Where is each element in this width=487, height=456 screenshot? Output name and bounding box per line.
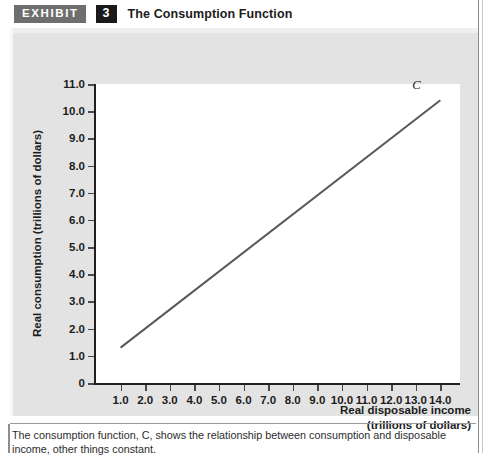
y-tick-mark — [88, 84, 94, 86]
exhibit-badge: EXHIBIT — [14, 5, 86, 23]
x-tick-mark — [416, 385, 418, 391]
y-axis-title: Real consumption (trillions of dollars) — [31, 84, 47, 383]
x-tick-mark — [170, 385, 172, 391]
y-tick-label: 3.0 — [69, 295, 85, 307]
y-tick-mark — [88, 193, 94, 195]
y-tick-mark — [88, 138, 94, 140]
figure-caption: The consumption function, C, shows the r… — [12, 428, 472, 456]
y-tick-label: 1.0 — [69, 350, 85, 362]
y-tick-label: 2.0 — [69, 323, 85, 335]
x-tick-mark — [268, 385, 270, 391]
y-tick-label: 0 — [79, 377, 85, 389]
caption-divider — [10, 423, 476, 424]
x-tick-mark — [145, 385, 147, 391]
x-tick-mark — [342, 385, 344, 391]
x-tick-mark — [219, 385, 221, 391]
caption-line-2: things constant. — [80, 443, 156, 455]
y-tick-label: 9.0 — [69, 132, 85, 144]
plot-area-wrapper: 01.02.03.04.05.06.07.08.09.010.011.0 1.0… — [96, 84, 460, 383]
exhibit-header: EXHIBIT 3 The Consumption Function — [14, 5, 292, 23]
y-tick-label: 11.0 — [63, 78, 85, 90]
page-edge-rule-secondary — [482, 0, 483, 453]
y-tick-label: 8.0 — [69, 160, 85, 172]
x-axis-title-line1: Real disposable income — [13, 403, 471, 418]
y-tick-mark — [88, 274, 94, 276]
panel-top-highlight — [13, 28, 479, 33]
y-tick-mark — [88, 220, 94, 222]
exhibit-number-badge: 3 — [96, 5, 117, 23]
x-tick-mark — [317, 385, 319, 391]
caption-line-1: The consumption function, C, shows the r… — [12, 429, 446, 455]
consumption-function-curve — [96, 84, 460, 383]
y-tick-mark — [88, 383, 94, 385]
x-axis-line — [94, 383, 460, 385]
x-tick-mark — [194, 385, 196, 391]
x-tick-mark — [121, 385, 123, 391]
y-tick-label: 6.0 — [69, 214, 85, 226]
x-tick-mark — [244, 385, 246, 391]
curve-label-c: C — [412, 78, 420, 93]
y-tick-mark — [88, 301, 94, 303]
page-edge-rule — [478, 0, 479, 453]
caption-left-rule — [8, 424, 10, 453]
x-tick-mark — [391, 385, 393, 391]
y-tick-label: 7.0 — [69, 187, 85, 199]
y-tick-mark — [88, 166, 94, 168]
exhibit-title: The Consumption Function — [128, 7, 293, 21]
y-tick-label: 5.0 — [69, 241, 85, 253]
x-tick-mark — [367, 385, 369, 391]
y-tick-label: 4.0 — [69, 268, 85, 280]
y-tick-mark — [88, 356, 94, 358]
x-tick-mark — [440, 385, 442, 391]
y-tick-mark — [88, 329, 94, 331]
y-tick-mark — [88, 111, 94, 113]
x-tick-mark — [293, 385, 295, 391]
chart-panel: Real consumption (trillions of dollars) … — [10, 28, 479, 416]
y-tick-mark — [88, 247, 94, 249]
y-tick-label: 10.0 — [63, 105, 85, 117]
